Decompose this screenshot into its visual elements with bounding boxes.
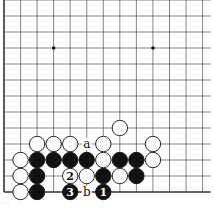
black-stone: 1 <box>96 184 111 199</box>
move-number-label: 1 <box>99 186 107 199</box>
white-stone <box>79 168 94 183</box>
white-stone <box>46 136 61 151</box>
white-stone <box>145 136 160 151</box>
white-stone <box>96 152 111 167</box>
star-point-icon <box>52 46 56 50</box>
white-stone <box>62 136 77 151</box>
white-stone <box>13 152 28 167</box>
white-stone <box>96 136 111 151</box>
black-stone: 3 <box>62 184 77 199</box>
white-stone: 2 <box>62 168 77 183</box>
move-number-label: 3 <box>66 186 74 199</box>
black-stone <box>96 168 111 183</box>
black-stone <box>129 152 144 167</box>
black-stone <box>62 152 77 167</box>
point-letter-label: a <box>83 137 90 151</box>
white-stone <box>29 136 44 151</box>
diagram-caption: · ·· <box>2 199 10 206</box>
black-stone <box>29 152 44 167</box>
black-stone <box>46 152 61 167</box>
move-number-label: 2 <box>66 170 74 183</box>
white-stone <box>112 120 127 135</box>
white-stone <box>13 168 28 183</box>
go-board: 312 ab <box>0 0 214 208</box>
black-stone <box>129 168 144 183</box>
white-stone <box>145 152 160 167</box>
star-point-icon <box>151 46 155 50</box>
black-stone <box>29 184 44 199</box>
white-stone <box>112 168 127 183</box>
black-stone <box>29 168 44 183</box>
black-stone <box>112 152 127 167</box>
black-stone <box>79 152 94 167</box>
point-letter-label: b <box>83 185 91 199</box>
white-stone <box>13 184 28 199</box>
